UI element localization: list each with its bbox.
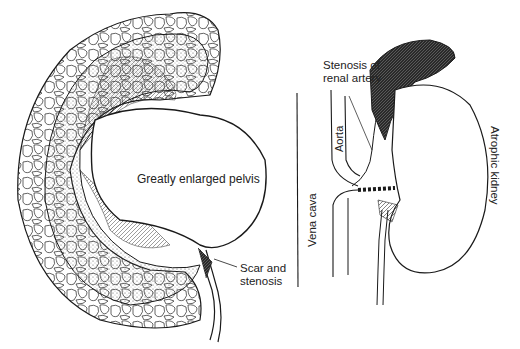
label-scar-line1: Scar and	[240, 262, 286, 275]
label-aorta: Aorta	[333, 126, 346, 152]
label-stenosis-line1: Stenosis of	[323, 59, 381, 72]
illustration-canvas	[0, 0, 520, 349]
atrophic-kidney	[389, 85, 488, 273]
vena-cava-line	[297, 93, 298, 287]
label-atrophic-kidney: Atrophic kidney	[488, 126, 501, 205]
label-stenosis-renal-artery: Stenosis of renal artery	[323, 59, 381, 85]
label-greatly-enlarged-pelvis: Greatly enlarged pelvis	[137, 173, 260, 186]
label-scar-line2: stenosis	[240, 275, 286, 288]
label-scar-and-stenosis: Scar and stenosis	[240, 262, 286, 288]
label-vena-cava: Vena cava	[306, 193, 319, 247]
label-stenosis-line2: renal artery	[323, 72, 381, 85]
